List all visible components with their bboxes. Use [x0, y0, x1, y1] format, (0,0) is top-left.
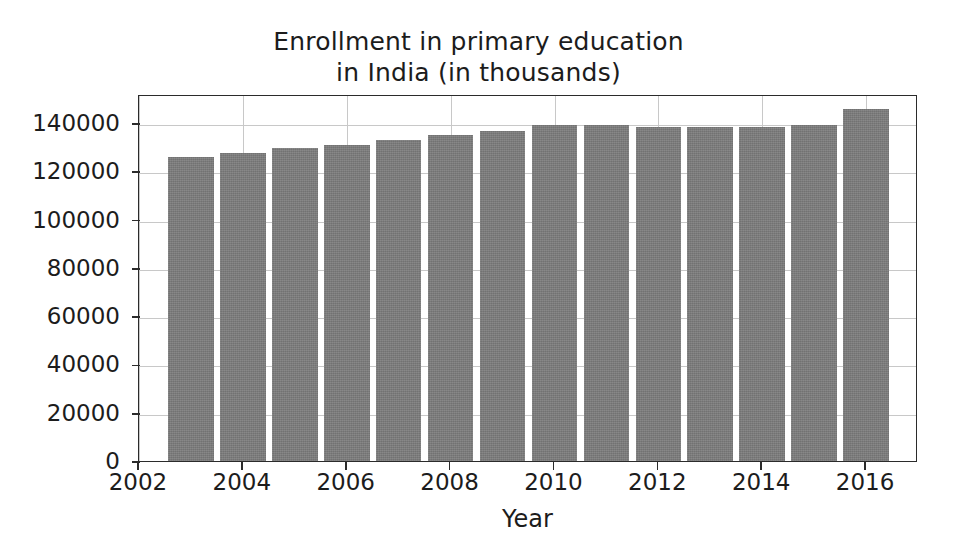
x-tick-mark — [657, 462, 659, 470]
x-tick-mark — [137, 462, 139, 470]
x-tick-label: 2002 — [83, 470, 193, 494]
y-tick-mark — [132, 413, 140, 415]
bar-2008 — [428, 135, 474, 461]
y-tick-label: 140000 — [0, 112, 120, 135]
y-tick-label: 80000 — [0, 257, 120, 280]
x-tick-mark — [241, 462, 243, 470]
bar-2013 — [687, 127, 733, 461]
x-tick-mark — [449, 462, 451, 470]
y-tick-mark — [132, 365, 140, 367]
y-tick-label: 60000 — [0, 305, 120, 328]
x-tick-mark — [864, 462, 866, 470]
bar-2003 — [168, 157, 214, 461]
chart-title: Enrollment in primary education in India… — [0, 26, 957, 88]
bar-2005 — [272, 148, 318, 461]
y-tick-label: 120000 — [0, 160, 120, 183]
y-tick-mark — [132, 123, 140, 125]
bar-2010 — [532, 125, 578, 461]
bar-2006 — [324, 145, 370, 461]
y-tick-mark — [132, 461, 140, 463]
x-tick-label: 2006 — [291, 470, 401, 494]
gridline-vertical — [139, 96, 140, 461]
bar-2015 — [791, 125, 837, 461]
bar-2004 — [220, 153, 266, 461]
x-axis-label: Year — [138, 505, 917, 533]
y-tick-mark — [132, 171, 140, 173]
x-tick-mark — [345, 462, 347, 470]
bar-2011 — [584, 125, 630, 461]
x-tick-mark — [553, 462, 555, 470]
plot-area — [138, 95, 917, 462]
x-tick-mark — [760, 462, 762, 470]
bar-2009 — [480, 131, 526, 461]
x-tick-label: 2012 — [602, 470, 712, 494]
bar-2016 — [843, 109, 889, 461]
x-tick-label: 2004 — [187, 470, 297, 494]
bar-2012 — [636, 127, 682, 461]
bar-2014 — [739, 127, 785, 461]
x-tick-label: 2010 — [498, 470, 608, 494]
x-tick-label: 2008 — [395, 470, 505, 494]
y-tick-mark — [132, 220, 140, 222]
y-tick-mark — [132, 316, 140, 318]
y-tick-mark — [132, 268, 140, 270]
x-tick-label: 2014 — [706, 470, 816, 494]
bar-2007 — [376, 140, 422, 461]
y-tick-label: 20000 — [0, 402, 120, 425]
y-tick-label: 40000 — [0, 353, 120, 376]
x-tick-label: 2016 — [810, 470, 920, 494]
y-tick-label: 100000 — [0, 209, 120, 232]
chart-figure: Enrollment in primary education in India… — [0, 0, 957, 552]
